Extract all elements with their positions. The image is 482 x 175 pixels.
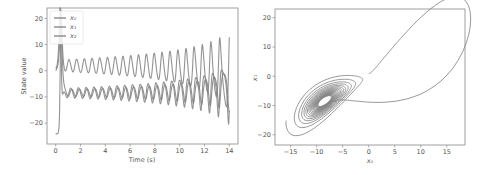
right-axes-frame [275, 9, 465, 145]
x-tick-label: 14 [225, 147, 233, 155]
y-tick-label: 20 [35, 15, 43, 23]
x-tick-label: 12 [200, 147, 208, 155]
x-tick-label: −10 [310, 148, 324, 156]
x-tick-label: 8 [153, 147, 157, 155]
x-tick-label: −5 [338, 148, 348, 156]
left-y-axis-label: State value [20, 57, 28, 94]
x-tick-label: 15 [443, 148, 451, 156]
x-tick-label: 0 [54, 147, 58, 155]
time-series-plot: 02468101214−20−1001020 x₀ x₁ x₂ Time (s)… [20, 8, 238, 164]
y-tick-label: 20 [263, 14, 271, 22]
x-tick-label: 2 [78, 147, 82, 155]
y-tick-label: 0 [39, 67, 43, 75]
right-x-axis-label: x₀ [366, 157, 374, 165]
y-tick-label: −10 [29, 93, 43, 101]
x-tick-label: −15 [284, 148, 298, 156]
figure: 02468101214−20−1001020 x₀ x₁ x₂ Time (s)… [0, 0, 482, 175]
x-tick-label: 10 [417, 148, 425, 156]
x-tick-label: 4 [103, 147, 107, 155]
legend-label-x2: x₂ [69, 32, 77, 40]
x-tick-label: 0 [367, 148, 371, 156]
phase-portrait-plot: −15−10−5051015−20−1001020 x₀ x₁ [251, 0, 471, 165]
x-tick-label: 5 [393, 148, 397, 156]
y-tick-label: 0 [267, 73, 271, 81]
legend-label-x0: x₀ [69, 14, 77, 22]
x-tick-label: 6 [128, 147, 132, 155]
right-y-axis-label: x₁ [251, 74, 259, 82]
y-tick-label: −20 [29, 119, 43, 127]
y-tick-label: −10 [257, 102, 271, 110]
y-tick-label: 10 [263, 43, 271, 51]
left-x-axis-label: Time (s) [128, 156, 155, 164]
legend: x₀ x₁ x₂ [50, 11, 83, 44]
y-tick-label: 10 [35, 41, 43, 49]
y-tick-label: −20 [257, 131, 271, 139]
legend-label-x1: x₁ [69, 23, 77, 31]
x-tick-label: 10 [176, 147, 184, 155]
